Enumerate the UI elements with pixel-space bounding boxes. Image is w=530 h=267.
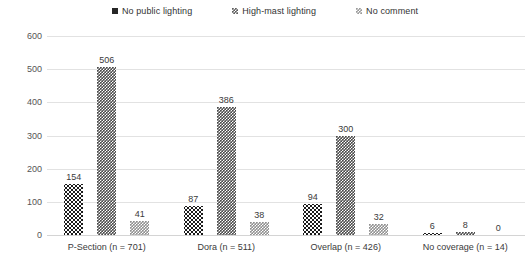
bar-column: 94 — [303, 36, 322, 235]
legend-label-series-1: No public lighting — [122, 6, 192, 16]
bar-column: 506 — [97, 36, 116, 235]
legend-item-high-mast-lighting: High-mast lighting — [232, 6, 316, 16]
bar-group: 680No coverage (n = 14) — [406, 36, 526, 235]
legend-label-series-3: No comment — [366, 6, 418, 16]
chart-bar-groups: 15450641P-Section (n = 701)8738638Dora (… — [47, 36, 525, 235]
x-axis-group-label: Dora (n = 511) — [167, 242, 287, 252]
bar-column: 32 — [369, 36, 388, 235]
bar-value-label: 94 — [308, 193, 318, 202]
bar[interactable] — [336, 136, 355, 236]
y-axis-tick-400: 400 — [2, 97, 42, 107]
legend-swatch-icon-series-2 — [232, 8, 238, 14]
bar-column: 87 — [184, 36, 203, 235]
bar-group: 8738638Dora (n = 511) — [167, 36, 287, 235]
legend-item-no-comment: No comment — [356, 6, 418, 16]
bar[interactable] — [423, 233, 442, 235]
bar-column: 8 — [456, 36, 475, 235]
bar-value-label: 506 — [99, 56, 114, 65]
bar-group-bars: 8738638 — [167, 36, 287, 235]
bar-value-label: 38 — [254, 211, 264, 220]
legend-swatch-icon-series-1 — [112, 8, 118, 14]
bar-column: 154 — [64, 36, 83, 235]
bar-group-bars: 680 — [406, 36, 526, 235]
bar[interactable] — [456, 232, 475, 235]
gridline-0 — [47, 235, 525, 236]
bar[interactable] — [130, 221, 149, 235]
bar-value-label: 41 — [135, 210, 145, 219]
bar-value-label: 6 — [430, 222, 435, 231]
y-axis-tick-300: 300 — [2, 131, 42, 141]
bar[interactable] — [97, 67, 116, 235]
bar-column: 6 — [423, 36, 442, 235]
bar[interactable] — [369, 224, 388, 235]
bar-value-label: 300 — [338, 125, 353, 134]
legend-swatch-icon-series-3 — [356, 8, 362, 14]
y-axis-tick-0: 0 — [2, 230, 42, 240]
legend-label-series-2: High-mast lighting — [242, 6, 316, 16]
bar-column: 300 — [336, 36, 355, 235]
bar-value-label: 154 — [66, 173, 81, 182]
bar-value-label: 8 — [463, 221, 468, 230]
bar-group-bars: 15450641 — [47, 36, 167, 235]
x-axis-group-label: P-Section (n = 701) — [47, 242, 167, 252]
y-axis-tick-600: 600 — [2, 31, 42, 41]
bar-value-label: 87 — [188, 195, 198, 204]
bar-group-bars: 9430032 — [286, 36, 406, 235]
x-axis-group-label: No coverage (n = 14) — [406, 242, 526, 252]
chart-legend: No public lighting High-mast lighting No… — [0, 6, 530, 16]
bar-column: 38 — [250, 36, 269, 235]
y-axis-tick-100: 100 — [2, 197, 42, 207]
bar[interactable] — [64, 184, 83, 235]
bar-value-label: 32 — [374, 213, 384, 222]
bar-group: 9430032Overlap (n = 426) — [286, 36, 406, 235]
bar-group: 15450641P-Section (n = 701) — [47, 36, 167, 235]
y-axis-tick-200: 200 — [2, 164, 42, 174]
bar[interactable] — [303, 204, 322, 235]
bar[interactable] — [250, 222, 269, 235]
x-axis-group-label: Overlap (n = 426) — [286, 242, 406, 252]
legend-item-no-public-lighting: No public lighting — [112, 6, 192, 16]
bar-value-label: 0 — [496, 224, 501, 233]
bar[interactable] — [184, 206, 203, 235]
y-axis-tick-500: 500 — [2, 64, 42, 74]
bar-column: 41 — [130, 36, 149, 235]
bar[interactable] — [217, 107, 236, 235]
bar-column: 386 — [217, 36, 236, 235]
bar-column: 0 — [489, 36, 508, 235]
chart-plot-area: 6005004003002001000 15450641P-Section (n… — [47, 36, 525, 235]
bar-value-label: 386 — [219, 96, 234, 105]
